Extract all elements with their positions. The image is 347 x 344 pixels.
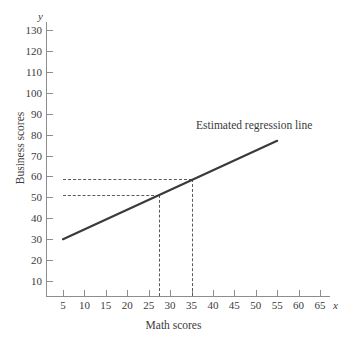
y-tick-60 xyxy=(47,176,53,177)
y-tick-label-10: 10 xyxy=(16,276,42,287)
x-tick-5 xyxy=(63,290,64,296)
guide-horizontal-upper xyxy=(63,179,192,180)
x-tick-60 xyxy=(299,290,300,296)
x-tick-65 xyxy=(320,290,321,296)
y-tick-label-130: 130 xyxy=(16,25,42,36)
x-tick-label-50: 50 xyxy=(244,300,268,311)
y-tick-50 xyxy=(47,197,53,198)
x-tick-label-35: 35 xyxy=(180,300,204,311)
guide-vertical-upper xyxy=(192,179,193,296)
y-tick-120 xyxy=(47,51,53,52)
x-tick-40 xyxy=(213,290,214,296)
y-tick-110 xyxy=(47,72,53,73)
x-tick-20 xyxy=(127,290,128,296)
y-tick-label-30: 30 xyxy=(16,234,42,245)
y-tick-30 xyxy=(47,239,53,240)
y-tick-label-20: 20 xyxy=(16,255,42,266)
x-tick-55 xyxy=(277,290,278,296)
plot-area: y x 102030405060708090100110120130 51015… xyxy=(0,0,347,344)
y-tick-20 xyxy=(47,260,53,261)
y-tick-80 xyxy=(47,135,53,136)
x-tick-50 xyxy=(256,290,257,296)
x-tick-label-20: 20 xyxy=(115,300,139,311)
x-tick-label-25: 25 xyxy=(137,300,161,311)
y-tick-label-110: 110 xyxy=(16,67,42,78)
x-tick-label-55: 55 xyxy=(265,300,289,311)
x-tick-15 xyxy=(106,290,107,296)
x-axis-title: Math scores xyxy=(0,319,347,331)
y-axis-variable-label: y xyxy=(38,10,43,22)
x-tick-label-10: 10 xyxy=(72,300,96,311)
y-tick-40 xyxy=(47,218,53,219)
x-axis-line xyxy=(46,296,330,297)
x-tick-label-30: 30 xyxy=(158,300,182,311)
x-tick-label-60: 60 xyxy=(287,300,311,311)
x-tick-label-40: 40 xyxy=(201,300,225,311)
x-tick-label-65: 65 xyxy=(308,300,332,311)
x-tick-label-45: 45 xyxy=(222,300,246,311)
x-tick-45 xyxy=(234,290,235,296)
x-tick-30 xyxy=(170,290,171,296)
regression-line-label: Estimated regression line xyxy=(196,119,312,131)
x-tick-10 xyxy=(84,290,85,296)
y-tick-10 xyxy=(47,281,53,282)
y-tick-label-40: 40 xyxy=(16,213,42,224)
x-tick-label-5: 5 xyxy=(51,300,75,311)
y-tick-130 xyxy=(47,30,53,31)
guide-vertical-lower xyxy=(159,195,160,296)
chart-figure: y x 102030405060708090100110120130 51015… xyxy=(0,0,347,344)
x-axis-variable-label: x xyxy=(333,299,338,311)
y-axis-title: Business scores xyxy=(14,83,26,213)
guide-horizontal-lower xyxy=(63,195,159,196)
y-tick-label-120: 120 xyxy=(16,46,42,57)
x-tick-25 xyxy=(149,290,150,296)
y-tick-100 xyxy=(47,93,53,94)
x-tick-label-15: 15 xyxy=(94,300,118,311)
y-tick-90 xyxy=(47,114,53,115)
y-axis-line xyxy=(46,22,47,296)
y-tick-70 xyxy=(47,156,53,157)
